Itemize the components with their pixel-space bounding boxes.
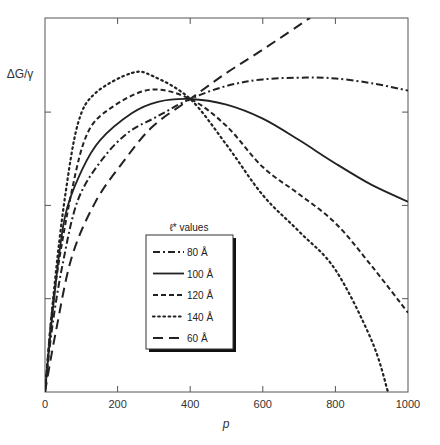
x-tick-label: 800 [326, 398, 344, 410]
x-tick-label: 200 [108, 398, 126, 410]
legend-entry-label: 140 Å [187, 311, 213, 323]
x-axis-label: p [222, 417, 230, 431]
x-tick-label: 0 [42, 398, 48, 410]
x-tick-label: 1000 [396, 398, 420, 410]
legend-entry-label: 60 Å [187, 332, 208, 344]
legend-entry-label: 120 Å [187, 289, 213, 301]
x-tick-label: 400 [181, 398, 199, 410]
legend-title: ℓ* values [170, 222, 209, 233]
legend: ℓ* values 80 Å100 Å120 Å140 Å60 Å [146, 222, 236, 352]
x-tick-label: 600 [254, 398, 272, 410]
chart: 02004006008001000 p ΔG/γ ℓ* values 80 Å1… [0, 0, 440, 445]
y-axis-label: ΔG/γ [7, 67, 34, 81]
legend-entry-label: 80 Å [187, 246, 208, 258]
legend-entry-label: 100 Å [187, 268, 213, 280]
